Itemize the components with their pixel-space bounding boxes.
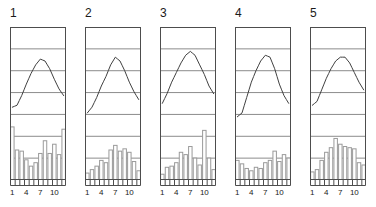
- climograph-panel: 514710: [308, 0, 376, 207]
- axis-ticks: [236, 180, 291, 186]
- precipitation-bar: [282, 155, 285, 180]
- precipitation-bar: [11, 127, 14, 180]
- precipitation-bar: [240, 164, 243, 180]
- plot-svg: [160, 27, 216, 180]
- axis-ticks: [86, 180, 141, 186]
- axis-tick-label: 7: [38, 188, 43, 197]
- precipitation-bar: [353, 149, 356, 180]
- axis-tick-label: 4: [174, 188, 179, 197]
- precipitation-bar: [315, 170, 318, 180]
- precipitation-bar: [34, 163, 37, 180]
- precipitation-bar: [343, 147, 346, 180]
- precipitation-bar: [109, 150, 112, 180]
- plot-area: [10, 27, 66, 180]
- axis-ticks: [311, 180, 366, 186]
- precipitation-bar: [95, 166, 98, 180]
- precipitation-bar: [170, 166, 173, 180]
- precipitation-bar: [100, 160, 103, 180]
- axis-tick-label: 10: [350, 188, 359, 197]
- axis-ticks: [161, 180, 216, 186]
- precipitation-bar: [57, 155, 60, 180]
- precipitation-bar: [118, 151, 121, 180]
- axis-tick-label: 4: [99, 188, 104, 197]
- climograph-figure: 114710214710314710414710514710: [0, 0, 376, 207]
- precipitation-bar: [278, 162, 281, 180]
- precipitation-bar: [179, 152, 182, 180]
- precipitation-bar: [189, 147, 192, 180]
- precipitation-bar: [165, 167, 168, 180]
- precipitation-bar: [264, 163, 267, 180]
- precipitation-bar: [250, 171, 253, 180]
- axis-tick-labels: 14710: [160, 188, 209, 197]
- precipitation-bar: [357, 163, 360, 180]
- climograph-panel: 414710: [233, 0, 301, 207]
- axis-tick-labels: 14710: [235, 188, 284, 197]
- axis-tick-label: 1: [235, 188, 240, 197]
- panel-title: 4: [235, 6, 242, 20]
- precipitation-bar: [203, 130, 206, 180]
- axis-tick-label: 4: [24, 188, 29, 197]
- precipitation-bar: [39, 153, 42, 180]
- x-axis-svg: 14710: [10, 180, 66, 206]
- panel-title: 3: [160, 6, 167, 20]
- precipitation-bar: [259, 168, 262, 180]
- panel-title: 5: [310, 6, 317, 20]
- precipitation-bar: [334, 138, 337, 180]
- precipitation-bar: [311, 172, 314, 180]
- precipitation-bar: [132, 162, 135, 180]
- axis-tick-label: 1: [310, 188, 315, 197]
- axis-tick-label: 1: [160, 188, 165, 197]
- climograph-panel: 114710: [8, 0, 76, 207]
- climograph-panel: 214710: [83, 0, 151, 207]
- axis-tick-label: 1: [85, 188, 90, 197]
- precipitation-bar: [137, 171, 140, 180]
- plot-area: [310, 27, 366, 180]
- x-axis: 14710: [85, 180, 141, 206]
- precipitation-bar: [339, 144, 342, 180]
- axis-tick-label: 10: [50, 188, 59, 197]
- precipitation-bar: [273, 151, 276, 180]
- precipitation-bar: [348, 148, 351, 180]
- precipitation-bar: [48, 153, 51, 180]
- precipitation-bar: [268, 160, 271, 180]
- precipitation-bar: [325, 152, 328, 180]
- precipitation-bar: [29, 166, 32, 180]
- precipitation-bar: [62, 129, 65, 180]
- axis-tick-label: 7: [338, 188, 343, 197]
- precipitation-bar: [15, 150, 18, 180]
- x-axis: 14710: [10, 180, 66, 206]
- climograph-panel: 314710: [158, 0, 226, 207]
- axis-tick-label: 7: [263, 188, 268, 197]
- precipitation-bar: [104, 163, 107, 180]
- precipitation-bar: [193, 158, 196, 180]
- plot-svg: [310, 27, 366, 180]
- precipitation-bar: [254, 167, 257, 180]
- x-axis: 14710: [310, 180, 366, 206]
- x-axis: 14710: [235, 180, 291, 206]
- precipitation-bar: [114, 145, 117, 180]
- precipitation-bar: [198, 165, 201, 180]
- precipitation-bar: [207, 158, 210, 180]
- precipitation-bar: [175, 163, 178, 180]
- plot-svg: [10, 27, 66, 180]
- axis-tick-label: 10: [275, 188, 284, 197]
- precipitation-bar: [25, 160, 28, 180]
- precipitation-bar: [20, 151, 23, 180]
- axis-tick-label: 4: [324, 188, 329, 197]
- axis-tick-labels: 14710: [10, 188, 59, 197]
- precipitation-bar: [329, 148, 332, 180]
- x-axis-svg: 14710: [310, 180, 366, 206]
- axis-tick-label: 7: [188, 188, 193, 197]
- precipitation-bar: [86, 173, 89, 180]
- precipitation-bar: [236, 160, 239, 180]
- x-axis-svg: 14710: [85, 180, 141, 206]
- plot-background: [160, 27, 216, 180]
- plot-background: [310, 27, 366, 180]
- precipitation-bar: [90, 170, 93, 180]
- precipitation-bar: [123, 149, 126, 180]
- precipitation-bar: [184, 155, 187, 180]
- precipitation-bar: [362, 165, 365, 180]
- axis-tick-labels: 14710: [310, 188, 359, 197]
- x-axis: 14710: [160, 180, 216, 206]
- precipitation-bar: [287, 158, 290, 180]
